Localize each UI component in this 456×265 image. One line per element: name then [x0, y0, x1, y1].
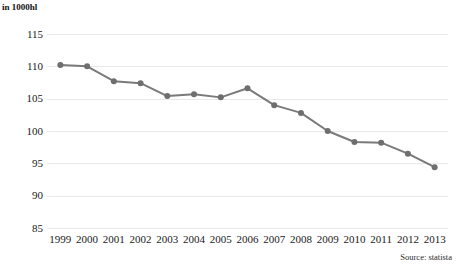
y-axis-tick-label: 85 — [3, 223, 43, 234]
x-axis-tick-label: 2004 — [183, 233, 205, 245]
data-point-marker — [325, 128, 331, 134]
x-axis-tick-label: 2008 — [290, 233, 312, 245]
data-point-marker — [271, 102, 277, 108]
data-point-marker — [432, 164, 438, 170]
data-point-marker — [84, 63, 90, 69]
data-point-marker — [164, 93, 170, 99]
chart-container: in 1000hl 115110105100959085 19992000200… — [0, 0, 456, 265]
x-axis-tick-label: 1999 — [49, 233, 71, 245]
y-axis-tick-label: 110 — [3, 61, 43, 72]
x-axis-tick-label: 2007 — [263, 233, 285, 245]
x-axis-tick-label: 2000 — [76, 233, 98, 245]
y-axis-tick-label: 105 — [3, 93, 43, 104]
data-point-marker — [351, 139, 357, 145]
x-axis-tick-label: 2003 — [156, 233, 178, 245]
y-axis-tick-label: 100 — [3, 126, 43, 137]
data-series-line — [47, 34, 448, 228]
y-axis-tick-label: 90 — [3, 190, 43, 201]
data-point-marker — [245, 85, 251, 91]
data-point-marker — [191, 91, 197, 97]
data-point-marker — [218, 94, 224, 100]
data-point-marker — [298, 110, 304, 116]
x-axis-tick-label: 2011 — [370, 233, 392, 245]
source-attribution: Source: statista — [400, 252, 452, 262]
data-point-marker — [378, 140, 384, 146]
data-point-marker — [57, 62, 63, 68]
x-axis-tick-label: 2012 — [397, 233, 419, 245]
data-point-marker — [405, 151, 411, 157]
gridline — [47, 228, 448, 229]
plot-area — [47, 34, 448, 228]
x-axis-tick-label: 2006 — [237, 233, 259, 245]
data-point-marker — [138, 80, 144, 86]
x-axis-tick-label: 2013 — [424, 233, 446, 245]
data-point-marker — [111, 78, 117, 84]
y-axis-tick-labels: 115110105100959085 — [0, 34, 43, 228]
x-axis-tick-labels: 1999200020012002200320042005200620072008… — [47, 233, 448, 249]
x-axis-tick-label: 2005 — [210, 233, 232, 245]
y-axis-tick-label: 115 — [3, 29, 43, 40]
x-axis-tick-label: 2001 — [103, 233, 125, 245]
y-axis-tick-label: 95 — [3, 158, 43, 169]
x-axis-tick-label: 2010 — [343, 233, 365, 245]
x-axis-tick-label: 2002 — [130, 233, 152, 245]
y-axis-unit-label: in 1000hl — [2, 2, 37, 12]
x-axis-tick-label: 2009 — [317, 233, 339, 245]
